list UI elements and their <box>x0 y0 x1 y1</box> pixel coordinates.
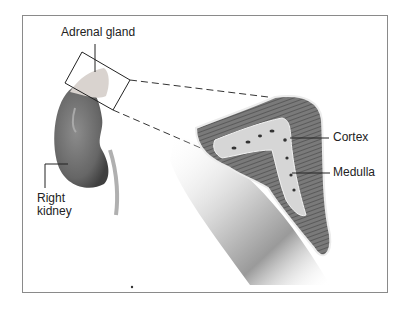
speck <box>131 286 133 288</box>
label-adrenal-gland: Adrenal gland <box>61 26 135 39</box>
ureter <box>110 150 117 215</box>
adrenal-illustration <box>0 0 410 309</box>
label-medulla: Medulla <box>333 166 375 179</box>
right-kidney-shape <box>54 86 108 188</box>
label-cortex: Cortex <box>333 131 368 144</box>
label-right-kidney-line2: kidney <box>37 205 72 218</box>
adrenal-gland-shape <box>70 68 109 98</box>
